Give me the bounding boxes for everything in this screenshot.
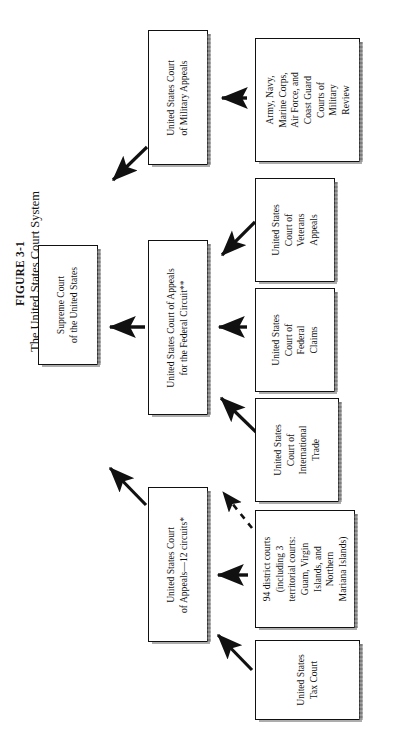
edge-circuit-courts-to-supreme-court (110, 468, 146, 505)
figure-page: FIGURE 3-1 The United States Court Syste… (0, 0, 393, 729)
node-us-court-of-federal-claims-label: United States Court of Federal Claims (270, 314, 321, 365)
node-service-courts-of-military-review[interactable]: Army, Navy, Marine Corps, Air Force, and… (255, 38, 360, 162)
node-us-court-of-federal-claims[interactable]: United States Court of Federal Claims (255, 288, 335, 392)
edge-veterans-appeals-to-federal-circuit (222, 222, 255, 255)
node-us-court-of-appeals-federal-circuit[interactable]: United States Court of Appeals for the F… (148, 240, 208, 415)
node-us-court-of-veterans-appeals-label: United States Court of Veterans Appeals (270, 204, 321, 255)
node-supreme-court[interactable]: Supreme Court of the United States (38, 245, 98, 365)
edge-military-appeals-to-supreme-court (113, 147, 147, 180)
node-supreme-court-label: Supreme Court of the United States (55, 267, 80, 343)
node-us-court-of-international-trade-label: United States Court of International Tra… (272, 424, 323, 475)
figure-number: FIGURE 3-1 (14, 241, 26, 306)
node-district-courts-label: 94 district courts (including 3 territor… (261, 537, 350, 602)
node-us-court-of-military-appeals-label: United States Court of Military Appeals (165, 60, 190, 136)
node-us-tax-court[interactable]: United States Tax Court (255, 640, 360, 720)
node-us-tax-court-label: United States Tax Court (295, 654, 320, 705)
node-us-court-of-appeals-federal-circuit-label: United States Court of Appeals for the F… (165, 268, 190, 387)
node-us-court-of-appeals-12-circuits-label: United States Court of Appeals—12 circui… (165, 517, 190, 613)
node-us-court-of-veterans-appeals[interactable]: United States Court of Veterans Appeals (255, 178, 335, 282)
node-us-court-of-military-appeals[interactable]: United States Court of Military Appeals (148, 30, 208, 165)
node-district-courts[interactable]: 94 district courts (including 3 territor… (255, 510, 355, 628)
node-us-court-of-appeals-12-circuits[interactable]: United States Court of Appeals—12 circui… (148, 487, 208, 642)
node-service-courts-of-military-review-label: Army, Navy, Marine Corps, Air Force, and… (263, 72, 352, 128)
node-us-court-of-international-trade[interactable]: United States Court of International Tra… (255, 398, 339, 502)
edge-international-trade-to-federal-circuit (221, 398, 256, 432)
edge-tax-court-to-circuit-courts (218, 635, 252, 670)
edge-district-courts-to-federal-circuit (223, 492, 252, 528)
